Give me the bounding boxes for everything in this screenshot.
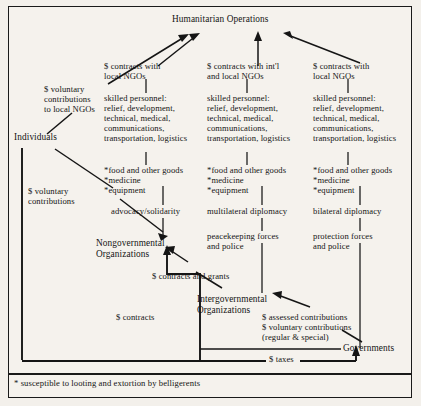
node-individuals: Individuals xyxy=(14,132,57,143)
label-igo-contracts: $ contracts with int'l and local NGOs xyxy=(207,62,279,82)
node-nongovernmental-organizations: Nongovernmental Organizations xyxy=(96,238,165,260)
label-ngo-goods: *food and other goods *medicine *equipme… xyxy=(104,166,183,196)
diagram-page: Humanitarian Operations $ contracts with… xyxy=(0,0,421,406)
footnote-separator xyxy=(9,373,411,375)
label-taxes: $ taxes xyxy=(269,355,294,365)
label-igo-personnel: skilled personnel: relief, development, … xyxy=(207,94,290,144)
node-governments: Governments xyxy=(343,343,394,354)
label-voluntary-to-local-ngos: $ voluntary contributions to local NGOs xyxy=(44,85,95,115)
label-ngo-activity: advocacy/solidarity xyxy=(111,207,180,217)
label-gov-personnel: skilled personnel: relief, development, … xyxy=(313,94,396,144)
node-humanitarian-operations: Humanitarian Operations xyxy=(172,14,269,25)
label-gov-goods: *food and other goods *medicine *equipme… xyxy=(313,166,392,196)
label-gov-activity: bilateral diplomacy xyxy=(313,207,381,217)
footnote: * susceptible to looting and extortion b… xyxy=(14,379,200,389)
label-gov-contracts: $ contracts with local NGOs xyxy=(313,62,370,82)
label-assessed-voluntary-contributions: $ assessed contributions $ voluntary con… xyxy=(262,313,351,343)
label-voluntary-contributions: $ voluntary contributions xyxy=(28,187,75,207)
label-igo-force: peacekeeping forces and police xyxy=(207,232,279,252)
label-gov-force: protection forces and police xyxy=(313,232,373,252)
label-contracts-and-grants: $ contracts and grants xyxy=(152,272,229,282)
label-igo-activity: multilateral diplomacy xyxy=(207,207,287,217)
node-intergovernmental-organizations: Intergovernmental Organizations xyxy=(197,294,267,316)
label-ngo-contracts: $ contracts with local NGOs xyxy=(104,62,161,82)
label-contracts: $ contracts xyxy=(116,313,155,323)
label-igo-goods: *food and other goods *medicine *equipme… xyxy=(207,166,286,196)
label-ngo-personnel: skilled personnel: relief, development, … xyxy=(104,94,187,144)
